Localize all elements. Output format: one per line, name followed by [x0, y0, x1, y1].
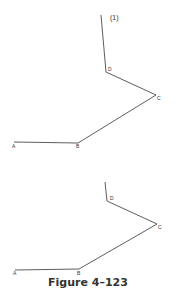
label-b: B	[76, 143, 80, 149]
diagram-canvas: (1) D C B A D C B A	[0, 0, 176, 306]
polyline-bottom	[15, 182, 157, 270]
label-d: D	[110, 195, 114, 201]
label-d: D	[108, 66, 112, 72]
figure-top: (1) D C B A	[12, 14, 161, 149]
label-a: A	[12, 143, 16, 149]
annotation-1: (1)	[110, 14, 119, 22]
label-c: C	[158, 224, 162, 230]
label-c: C	[157, 95, 161, 101]
polyline-top	[14, 15, 156, 143]
figure-caption: Figure 4–123	[0, 276, 176, 289]
figure-bottom: D C B A	[13, 182, 162, 276]
